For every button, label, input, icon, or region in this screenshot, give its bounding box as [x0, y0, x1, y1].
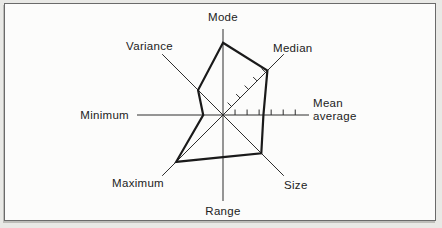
axis-label-maximum: Maximum [112, 177, 164, 189]
tick-mark-median [245, 86, 249, 90]
axis-label-size: Size [284, 179, 308, 191]
axis-label-median: Median [273, 42, 313, 54]
tick-mark-median [228, 103, 232, 107]
axis-size [223, 115, 284, 176]
axis-label-variance: Variance [126, 40, 173, 52]
axis-label-range: Range [205, 205, 240, 217]
axis-maximum [162, 115, 223, 176]
axis-label-mean-average: Meanaverage [313, 97, 357, 122]
axis-label-minimum: Minimum [80, 109, 129, 121]
data-polygon [176, 43, 267, 162]
radar-chart: ModeMedianMeanaverageSizeRangeMaximumMin… [0, 0, 442, 228]
axis-variance [162, 54, 223, 115]
axis-median [223, 54, 284, 115]
tick-mark-median [253, 77, 257, 81]
tick-mark-median [236, 94, 240, 98]
axis-label-mode: Mode [208, 11, 238, 23]
